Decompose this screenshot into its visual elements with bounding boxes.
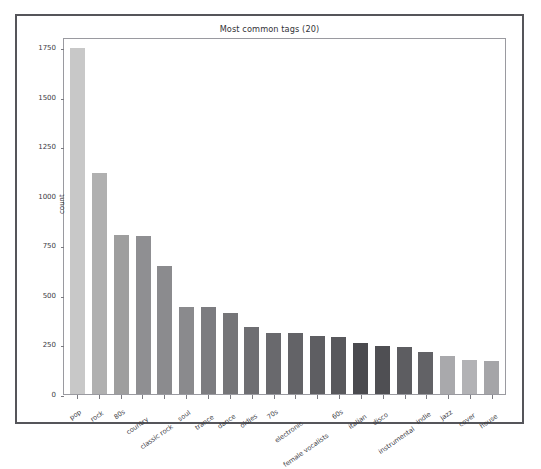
bar-slot <box>393 39 415 394</box>
x-tick-label-text: soul <box>177 409 193 423</box>
bar <box>266 333 281 394</box>
bar <box>244 327 259 394</box>
x-tick-slot: house <box>481 395 503 465</box>
x-tick-label-text: 70s <box>265 408 279 421</box>
x-tick-slot: soul <box>175 395 197 465</box>
x-tick-label-text: oldies <box>238 412 258 430</box>
bar-slot <box>480 39 502 394</box>
x-tick-slot: rock <box>88 395 110 465</box>
bar <box>353 343 368 394</box>
x-tick-slot: classic rock <box>153 395 175 465</box>
bar-slot <box>154 39 176 394</box>
bar <box>179 307 194 394</box>
bar-slot <box>415 39 437 394</box>
x-tick-mark <box>121 395 122 399</box>
x-tick-slot: instrumental <box>394 395 416 465</box>
x-tick-slot: jazz <box>437 395 459 465</box>
x-tick-slot: italian <box>350 395 372 465</box>
y-tick-label: 1750 <box>38 44 56 52</box>
x-tick-mark <box>426 395 427 399</box>
bar-slot <box>306 39 328 394</box>
x-tick-mark <box>470 395 471 399</box>
bar <box>310 336 325 394</box>
x-tick-mark <box>317 395 318 399</box>
bar-slot <box>263 39 285 394</box>
bar-slot <box>372 39 394 394</box>
x-tick-label-text: disco <box>371 411 390 427</box>
bar-slot <box>328 39 350 394</box>
x-tick-label-text: jazz <box>439 408 454 422</box>
bar <box>136 236 151 394</box>
x-tick-mark <box>405 395 406 399</box>
x-tick-mark <box>77 395 78 399</box>
plot-area: count 02505007501000125015001750 <box>63 38 506 395</box>
bar <box>288 333 303 394</box>
x-tick-mark <box>274 395 275 399</box>
bar <box>484 361 499 394</box>
x-tick-slot: 60s <box>328 395 350 465</box>
x-tick-mark <box>142 395 143 399</box>
bar <box>114 235 129 394</box>
x-tick-slot: trance <box>197 395 219 465</box>
x-tick-label-text: house <box>478 412 499 430</box>
x-tick-slot: country <box>132 395 154 465</box>
bar <box>375 346 390 394</box>
bar-slot <box>219 39 241 394</box>
y-tick-label: 1000 <box>38 193 56 201</box>
x-tick-mark <box>448 395 449 399</box>
bar <box>92 173 107 394</box>
y-tick-label: 750 <box>43 242 56 250</box>
x-tick-label-text: pop <box>68 408 83 422</box>
x-tick-mark <box>164 395 165 399</box>
x-tick-slot: oldies <box>241 395 263 465</box>
x-tick-label-text: dance <box>216 413 237 431</box>
x-tick-mark <box>186 395 187 399</box>
x-axis-ticks: poprock80scountryclassic rocksoultranced… <box>63 395 506 465</box>
x-tick-slot: cover <box>459 395 481 465</box>
bar-series <box>64 39 505 394</box>
chart-title: Most common tags (20) <box>17 24 522 34</box>
x-tick-label-text: 60s <box>330 408 344 421</box>
bar <box>462 360 477 394</box>
x-tick-mark <box>208 395 209 399</box>
bar-slot <box>285 39 307 394</box>
x-tick-label: house <box>495 401 516 419</box>
bar <box>223 313 238 394</box>
x-tick-label-text: rock <box>89 409 105 424</box>
bar <box>440 356 455 394</box>
bar-slot <box>241 39 263 394</box>
matplotlib-figure: Most common tags (20) count 025050075010… <box>17 16 522 422</box>
bar-slot <box>350 39 372 394</box>
x-tick-mark <box>99 395 100 399</box>
x-tick-slot: 70s <box>263 395 285 465</box>
bar-slot <box>132 39 154 394</box>
bar-slot <box>89 39 111 394</box>
bar <box>70 48 85 394</box>
bar-slot <box>437 39 459 394</box>
y-tick-label: 250 <box>43 341 56 349</box>
x-tick-slot: indie <box>416 395 438 465</box>
bar <box>418 352 433 394</box>
bar-slot <box>67 39 89 394</box>
x-tick-mark <box>230 395 231 399</box>
x-tick-mark <box>252 395 253 399</box>
y-tick-label: 500 <box>43 292 56 300</box>
y-tick-label: 1500 <box>38 94 56 102</box>
bar-slot <box>176 39 198 394</box>
x-tick-mark <box>492 395 493 399</box>
bar-slot <box>459 39 481 394</box>
bar <box>157 266 172 394</box>
x-tick-slot: female vocalists <box>306 395 328 465</box>
bar-slot <box>111 39 133 394</box>
x-tick-label-text: 80s <box>112 408 126 421</box>
x-tick-label-text: cover <box>457 412 477 429</box>
bar <box>397 347 412 394</box>
x-tick-slot: pop <box>66 395 88 465</box>
x-tick-mark <box>361 395 362 399</box>
bar-slot <box>198 39 220 394</box>
y-tick-label: 1250 <box>38 143 56 151</box>
x-tick-mark <box>383 395 384 399</box>
x-tick-label-text: trance <box>193 413 215 432</box>
x-tick-mark <box>339 395 340 399</box>
x-tick-slot: dance <box>219 395 241 465</box>
